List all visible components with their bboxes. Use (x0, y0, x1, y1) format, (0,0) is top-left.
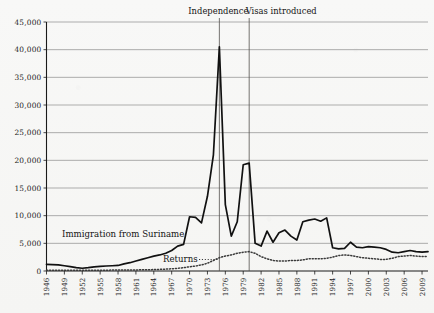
x-tick-label: 1964 (149, 277, 158, 296)
x-tick-label: 1988 (293, 277, 302, 296)
x-tick-label: 1973 (203, 277, 212, 296)
annotation-label: Independence (188, 6, 248, 16)
y-tick-label: 35,000 (14, 73, 41, 82)
x-tick-label: 1961 (132, 278, 141, 297)
series-line-returns (47, 252, 429, 271)
annotation-labels-group: IndependenceVisas introduced (188, 6, 317, 16)
x-tick-label: 1946 (42, 277, 51, 296)
x-tick-label: 1997 (346, 277, 355, 296)
y-tick-label: 15,000 (14, 184, 41, 193)
chart-container: 05,00010,00015,00020,00025,00030,00035,0… (0, 0, 434, 313)
y-tick-label: 45,000 (14, 18, 41, 27)
y-tick-label: 5,000 (19, 239, 41, 248)
x-tick-label: 1949 (60, 277, 69, 296)
x-tick-label: 1994 (328, 277, 337, 296)
y-tick-label: 0 (37, 267, 42, 276)
x-tick-label: 1979 (239, 277, 248, 296)
x-tick-label: 1982 (257, 278, 266, 297)
x-tick-label: 1970 (185, 277, 194, 296)
x-tick-label: 1976 (221, 277, 230, 296)
x-tick-label: 1952 (78, 278, 87, 297)
y-tick-label: 20,000 (14, 156, 41, 165)
x-tick-label: 2000 (364, 277, 373, 296)
x-tick-label: 2006 (400, 277, 409, 296)
x-tick-label: 2003 (382, 277, 391, 296)
series-label-returns: Returns (163, 254, 198, 264)
x-tick-label: 1985 (275, 277, 284, 296)
x-tick-label: 1967 (167, 277, 176, 296)
y-tick-label: 40,000 (14, 45, 41, 54)
x-tick-label: 1955 (96, 277, 105, 296)
x-tick-labels-group: 1946194919521955195819611964196719701973… (42, 271, 427, 296)
x-tick-label: 2009 (418, 277, 427, 296)
x-tick-label: 1991 (310, 278, 319, 297)
line-chart: 05,00010,00015,00020,00025,00030,00035,0… (0, 0, 434, 313)
series-inline-labels-group: Immigration from SurinameReturns (62, 229, 218, 264)
series-label-immigration: Immigration from Suriname (62, 229, 184, 239)
y-tick-labels-group: 05,00010,00015,00020,00025,00030,00035,0… (14, 18, 46, 276)
y-tick-label: 10,000 (14, 211, 41, 220)
y-tick-label: 30,000 (14, 101, 41, 110)
gridlines-group (47, 22, 429, 243)
annotation-label: Visas introduced (245, 6, 318, 16)
x-tick-label: 1958 (114, 277, 123, 296)
y-tick-label: 25,000 (14, 128, 41, 137)
